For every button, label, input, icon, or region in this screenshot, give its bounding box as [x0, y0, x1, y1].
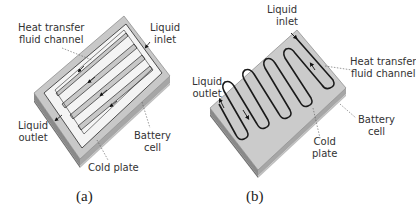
label-a-cold-plate: Cold plate [88, 162, 139, 174]
label-a-liquid-inlet: Liquid inlet [150, 22, 180, 46]
label-b-heat-transfer-fluid-channel: Heat transfer fluid channel [350, 56, 416, 80]
label-a-liquid-outlet: Liquid outlet [18, 120, 48, 144]
caption-b: (b) [246, 188, 264, 205]
label-b-battery-cell: Battery cell [358, 114, 395, 138]
label-b-liquid-inlet: Liquid inlet [266, 4, 298, 28]
caption-a: (a) [76, 188, 93, 205]
label-b-liquid-outlet: Liquid outlet [192, 76, 222, 100]
label-a-battery-cell: Battery cell [134, 130, 171, 154]
label-b-cold-plate: Cold plate [312, 136, 337, 160]
label-a-heat-transfer-fluid-channel: Heat transfer fluid channel [18, 22, 84, 46]
